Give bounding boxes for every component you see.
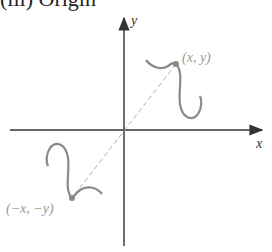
reflected-curve [47,144,102,198]
x-axis-label: x [256,136,262,152]
original-curve [146,60,201,118]
point-neg-x-neg-y-dot [69,195,75,201]
point-x-y-label: (x, y) [182,50,211,66]
point-neg-x-neg-y-label: (−x, −y) [6,201,54,217]
point-x-y-dot [173,61,179,67]
y-axis-label: y [131,13,137,29]
